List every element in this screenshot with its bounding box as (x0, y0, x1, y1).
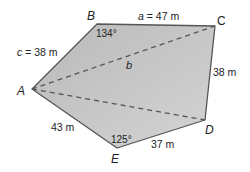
angle-label-e: 125° (111, 134, 132, 145)
angle-label-b: 134° (96, 28, 117, 39)
vertex-label-e: E (111, 152, 120, 166)
side-label-ab: c = 38 m (17, 46, 58, 58)
vertex-label-b: B (87, 9, 95, 23)
side-label-cd: 38 m (213, 66, 237, 78)
side-label-bc: a = 47 m (138, 10, 179, 22)
diagram-canvas: A B C D E c = 38 m a = 47 m 38 m 37 m 43… (0, 0, 250, 172)
vertex-label-d: D (205, 123, 214, 137)
diagonal-label-b: b (126, 59, 132, 71)
vertex-label-a: A (16, 84, 25, 98)
vertex-label-c: C (217, 14, 226, 28)
side-label-ea: 43 m (51, 121, 75, 133)
pentagon-diagram: A B C D E c = 38 m a = 47 m 38 m 37 m 43… (0, 0, 250, 172)
side-label-de: 37 m (151, 138, 175, 150)
